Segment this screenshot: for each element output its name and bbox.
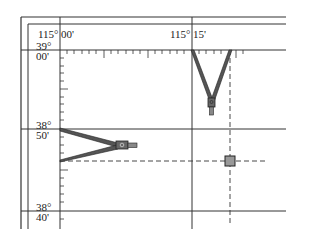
- lat-label-38-40-min: 40': [36, 212, 49, 222]
- lon-label-115-00-deg: 115°: [38, 29, 59, 39]
- lon-label-115-15-deg: 115°: [170, 29, 191, 39]
- lat-label-39-min: 00': [36, 51, 49, 61]
- lon-label-115-00-min: 00': [61, 29, 74, 39]
- divider-horizontal-icon: [60, 128, 137, 162]
- top-scale-ticks: [67, 50, 243, 58]
- lat-label-38-50-min: 50': [36, 130, 49, 140]
- plotted-point-marker: [225, 156, 235, 166]
- graticule-lines: [21, 17, 286, 229]
- divider-vertical-icon: [191, 50, 232, 115]
- left-scale-ticks: [60, 58, 68, 219]
- map-frame: [21, 17, 286, 229]
- lon-label-115-15-min: 15': [193, 29, 206, 39]
